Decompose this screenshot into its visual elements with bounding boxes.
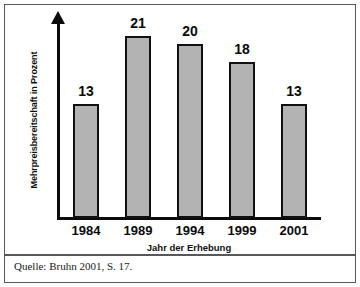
bar-2001[interactable]: [281, 104, 307, 218]
bar-value-2001: 13: [268, 83, 320, 99]
bar-1984[interactable]: [73, 104, 99, 218]
x-tick-label-1994: 1994: [162, 223, 218, 238]
x-tick-label-1989: 1989: [110, 223, 166, 238]
bar-slot-1994: 20 1994: [164, 21, 216, 218]
bar-1994[interactable]: [177, 44, 203, 218]
x-axis-title: Jahr der Erhebung: [57, 242, 321, 253]
bar-value-1984: 13: [60, 83, 112, 99]
figure-container: Mehrpreisbereitschaft in Prozent 13 1984…: [4, 4, 356, 283]
bar-value-1999: 18: [216, 41, 268, 57]
bar-slot-1999: 18 1999: [216, 21, 268, 218]
x-tick-label-1999: 1999: [214, 223, 270, 238]
bar-slot-2001: 13 2001: [268, 21, 320, 218]
chart-plot-area: Mehrpreisbereitschaft in Prozent 13 1984…: [5, 5, 355, 254]
source-divider: [5, 254, 355, 256]
source-note: Quelle: Bruhn 2001, S. 17.: [14, 260, 132, 272]
bar-group: 13 1984 21 1989 20 1994 18 1999 13: [60, 21, 321, 218]
bar-value-1989: 21: [112, 15, 164, 31]
x-tick-label-1984: 1984: [58, 223, 114, 238]
bar-1999[interactable]: [229, 62, 255, 218]
bar-slot-1989: 21 1989: [112, 21, 164, 218]
bar-1989[interactable]: [125, 36, 151, 218]
x-tick-label-2001: 2001: [266, 223, 322, 238]
y-axis-title: Mehrpreisbereitschaft in Prozent: [29, 40, 39, 200]
bar-slot-1984: 13 1984: [60, 21, 112, 218]
bar-value-1994: 20: [164, 23, 216, 39]
